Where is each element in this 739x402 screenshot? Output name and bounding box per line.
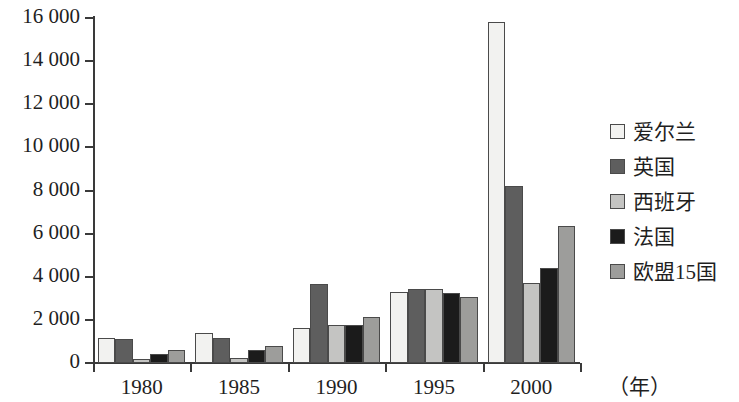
bar — [345, 325, 363, 363]
legend-item: 爱尔兰 — [610, 114, 739, 149]
bar — [558, 226, 576, 363]
bar — [540, 268, 558, 363]
bar — [265, 346, 283, 363]
bar-group — [293, 18, 381, 363]
bar — [443, 293, 461, 363]
y-axis-tick-label: 10 000 — [0, 135, 80, 156]
x-axis-tick-label: 1990 — [288, 376, 385, 398]
x-axis-tick-label: 1985 — [190, 376, 287, 398]
x-axis-tick — [580, 363, 582, 372]
y-axis-tick-label: 16 000 — [0, 6, 80, 27]
legend-label: 爱尔兰 — [633, 121, 696, 143]
bar — [390, 292, 408, 363]
y-axis-tick-label: 14 000 — [0, 49, 80, 70]
bar — [523, 283, 541, 363]
bar — [115, 339, 133, 363]
legend-label: 英国 — [633, 156, 675, 178]
legend-item: 欧盟15国 — [610, 254, 739, 289]
legend-item: 西班牙 — [610, 184, 739, 219]
x-axis-tick — [385, 363, 387, 372]
y-axis-tick-label: 4 000 — [0, 265, 80, 286]
bar — [363, 317, 381, 363]
bar — [488, 22, 506, 363]
y-axis-tick-label: 6 000 — [0, 222, 80, 243]
x-axis-tick-label: 2000 — [483, 376, 580, 398]
legend-swatch-icon — [610, 264, 625, 279]
legend-swatch-icon — [610, 159, 625, 174]
legend-label: 西班牙 — [633, 191, 696, 213]
x-axis-tick-label: 1995 — [385, 376, 482, 398]
x-axis-tick-label: 1980 — [93, 376, 190, 398]
legend-swatch-icon — [610, 229, 625, 244]
bar — [248, 350, 266, 363]
y-axis-tick-label: 8 000 — [0, 179, 80, 200]
bar — [293, 328, 311, 363]
y-axis-tick-label: 2 000 — [0, 308, 80, 329]
bar — [98, 338, 116, 363]
x-axis-tick — [93, 363, 95, 372]
bar — [328, 325, 346, 363]
chart-legend: 爱尔兰英国西班牙法国欧盟15国 — [610, 114, 739, 289]
bar — [460, 297, 478, 363]
x-axis-tick — [483, 363, 485, 372]
bar — [310, 284, 328, 363]
legend-swatch-icon — [610, 194, 625, 209]
plot-area — [93, 18, 580, 363]
bar — [133, 359, 151, 363]
bar — [505, 186, 523, 363]
bar-group — [195, 18, 283, 363]
y-axis-tick-label: 0 — [0, 351, 80, 372]
bar — [150, 354, 168, 363]
bar — [213, 338, 231, 363]
bar — [408, 289, 426, 363]
bar-group — [390, 18, 478, 363]
x-axis-tick — [190, 363, 192, 372]
x-axis-tick — [288, 363, 290, 372]
legend-item: 英国 — [610, 149, 739, 184]
y-axis-tick-label: 12 000 — [0, 92, 80, 113]
legend-item: 法国 — [610, 219, 739, 254]
legend-swatch-icon — [610, 124, 625, 139]
bar — [195, 333, 213, 363]
bar — [230, 358, 248, 363]
legend-label: 欧盟15国 — [633, 261, 717, 283]
bar-chart: 02 0004 0006 0008 00010 00012 00014 0001… — [0, 0, 739, 402]
legend-label: 法国 — [633, 226, 675, 248]
bar — [425, 289, 443, 363]
bar — [168, 350, 186, 363]
bar-group — [98, 18, 186, 363]
bar-group — [488, 18, 576, 363]
x-axis-unit-label: （年） — [608, 376, 671, 398]
